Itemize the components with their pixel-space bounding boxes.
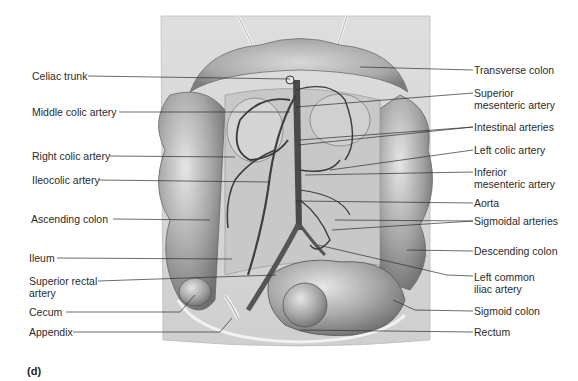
label-left-common-iliac-artery: Left common iliac artery <box>474 271 535 295</box>
label-ileum: Ileum <box>29 252 55 264</box>
label-ascending-colon: Ascending colon <box>31 213 108 225</box>
label-superior-rectal-artery: Superior rectal artery <box>29 275 97 299</box>
label-inferior-mesenteric-artery-line1: Inferior <box>474 166 555 178</box>
celiac-trunk-stump <box>286 76 294 84</box>
label-left-colic-artery: Left colic artery <box>474 144 545 156</box>
label-left-common-iliac-artery-line2: iliac artery <box>474 283 535 295</box>
label-superior-rectal-artery-line2: artery <box>29 287 97 299</box>
label-middle-colic-artery: Middle colic artery <box>32 106 117 118</box>
panel-letter: (d) <box>27 365 41 377</box>
anatomy-illustration <box>0 0 578 381</box>
label-aorta: Aorta <box>474 197 499 209</box>
label-descending-colon: Descending colon <box>474 245 557 257</box>
label-right-colic-artery: Right colic artery <box>32 150 110 162</box>
cecum-shape <box>179 278 211 306</box>
label-ileocolic-artery: Ileocolic artery <box>32 174 100 186</box>
label-rectum: Rectum <box>474 326 510 338</box>
label-sigmoid-colon: Sigmoid colon <box>474 305 540 317</box>
label-superior-rectal-artery-line1: Superior rectal <box>29 275 97 287</box>
label-sigmoidal-arteries: Sigmoidal arteries <box>474 215 558 227</box>
label-inferior-mesenteric-artery: Inferior mesenteric artery <box>474 166 555 190</box>
label-appendix: Appendix <box>29 326 73 338</box>
label-inferior-mesenteric-artery-line2: mesenteric artery <box>474 178 555 190</box>
label-celiac-trunk: Celiac trunk <box>32 70 87 82</box>
label-superior-mesenteric-artery-line1: Superior <box>474 87 555 99</box>
label-left-common-iliac-artery-line1: Left common <box>474 271 535 283</box>
label-superior-mesenteric-artery: Superior mesenteric artery <box>474 87 555 111</box>
label-transverse-colon: Transverse colon <box>474 64 554 76</box>
anatomy-figure: Celiac trunk Middle colic artery Right c… <box>0 0 578 381</box>
label-intestinal-arteries: Intestinal arteries <box>474 121 554 133</box>
label-superior-mesenteric-artery-line2: mesenteric artery <box>474 99 555 111</box>
label-cecum: Cecum <box>29 306 62 318</box>
